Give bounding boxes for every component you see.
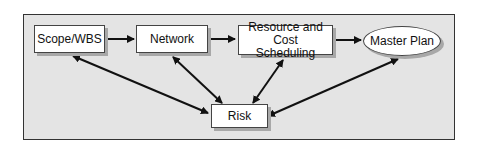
node-label-line1: Resource and Cost: [239, 21, 332, 47]
node-label-line2: Scheduling: [256, 47, 315, 60]
node-label: Master Plan: [370, 35, 434, 48]
node-resource-cost-scheduling: Resource and Cost Scheduling: [238, 25, 333, 55]
edge-risk-network: [173, 57, 222, 103]
node-label: Network: [150, 33, 194, 46]
node-label: Risk: [228, 110, 251, 123]
node-scope-wbs: Scope/WBS: [34, 25, 105, 53]
edge-risk-master: [268, 59, 398, 116]
node-label: Scope/WBS: [37, 33, 102, 46]
node-risk: Risk: [211, 104, 268, 128]
edge-risk-resource: [253, 60, 283, 103]
node-master-plan: Master Plan: [363, 26, 441, 56]
edge-risk-scope: [73, 56, 208, 113]
node-network: Network: [136, 25, 208, 53]
